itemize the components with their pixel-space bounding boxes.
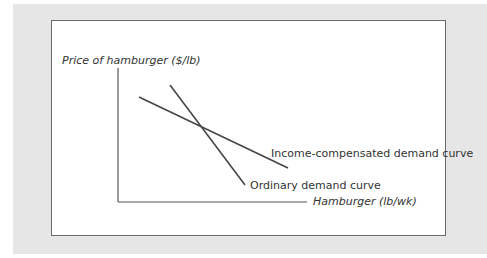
x-axis-label: Hamburger (lb/wk): [313, 195, 417, 208]
income-compensated-demand-curve: [139, 97, 288, 168]
y-axis-label: Price of hamburger ($/lb): [62, 54, 201, 67]
income-compensated-curve-label: Income-compensated demand curve: [271, 147, 473, 160]
ordinary-demand-curve: [170, 85, 245, 185]
diagram-canvas: [0, 0, 487, 258]
ordinary-curve-label: Ordinary demand curve: [250, 179, 381, 192]
